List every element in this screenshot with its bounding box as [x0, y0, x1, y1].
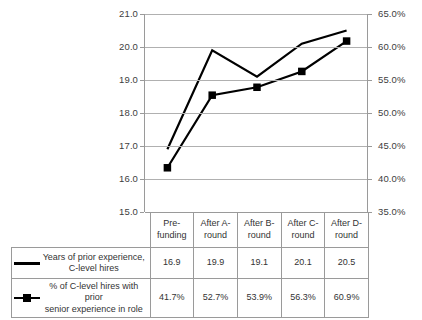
series-marker [298, 68, 306, 76]
legend-label-line: C-level hires [41, 263, 147, 274]
gridline [145, 80, 367, 81]
right-axis-tick-label: 50.0% [378, 107, 405, 118]
left-axis-tickmark [140, 47, 144, 48]
legend-label: Years of prior experience,C-level hires [41, 252, 147, 275]
category-header-label: After B-round [238, 218, 281, 241]
legend-entry-inner: % of C-level hires with priorsenior expe… [14, 281, 147, 315]
category-header-3: After B-round [237, 213, 281, 248]
gridline [145, 179, 367, 180]
swatch-square-marker [23, 294, 31, 302]
right-axis-tickmark [368, 146, 372, 147]
table-cell-value: 60.9% [325, 279, 369, 318]
table-cell-value: 56.3% [281, 279, 325, 318]
table-cell-value: 41.7% [150, 279, 194, 318]
table-row-categories: Pre-fundingAfter A-roundAfter B-roundAft… [12, 213, 369, 248]
category-header-1: Pre-funding [150, 213, 194, 248]
gridline [145, 113, 367, 114]
table-cell-value: 19.1 [237, 248, 281, 279]
left-axis-tick-label: 17.0 [119, 140, 138, 151]
legend-label-line: % of C-level hires with prior [41, 281, 147, 304]
series-marker [253, 84, 261, 92]
table-row: % of C-level hires with priorsenior expe… [12, 279, 369, 318]
line-square-marker-swatch-icon [14, 292, 40, 304]
left-axis-tickmark [140, 146, 144, 147]
table-corner-spacer [12, 213, 151, 248]
data-table-body: Pre-fundingAfter A-roundAfter B-roundAft… [12, 213, 369, 318]
right-axis-tickmark [368, 212, 372, 213]
table-cell-value: 20.1 [281, 248, 325, 279]
category-header-line: After B- [238, 218, 281, 230]
category-header-4: After C-round [281, 213, 325, 248]
right-axis-tick-label: 45.0% [378, 140, 405, 151]
right-axis-tickmark [368, 47, 372, 48]
left-axis-tickmark [140, 212, 144, 213]
category-header-2: After A-round [194, 213, 238, 248]
left-axis-tick-label: 21.0 [119, 8, 138, 19]
left-axis-tick-label: 18.0 [119, 107, 138, 118]
left-axis-tickmark [140, 14, 144, 15]
right-axis-tickmark [368, 14, 372, 15]
left-axis-tick-label: 16.0 [119, 173, 138, 184]
category-header-line: round [325, 230, 368, 242]
left-axis-tickmark [140, 113, 144, 114]
right-axis-tick-label: 35.0% [378, 206, 405, 217]
legend-entry-1[interactable]: Years of prior experience,C-level hires [12, 248, 151, 279]
legend-label: % of C-level hires with priorsenior expe… [41, 281, 147, 315]
left-axis-tick-label: 19.0 [119, 74, 138, 85]
right-axis-tickmark [368, 179, 372, 180]
right-axis-tick-label: 65.0% [378, 8, 405, 19]
category-header-line: After D- [325, 218, 368, 230]
category-header-line: round [194, 230, 237, 242]
right-axis-tickmark [368, 113, 372, 114]
table-cell-value: 53.9% [237, 279, 281, 318]
right-axis-tickmark [368, 80, 372, 81]
series-marker [343, 37, 351, 45]
left-axis-tickmark [140, 179, 144, 180]
legend-entry-2[interactable]: % of C-level hires with priorsenior expe… [12, 279, 151, 318]
category-header-line: round [282, 230, 325, 242]
table-cell-value: 16.9 [150, 248, 194, 279]
right-axis: 65.0%60.0%55.0%50.0%45.0%40.0%35.0% [378, 0, 422, 320]
category-header-line: After A- [194, 218, 237, 230]
gridline [145, 47, 367, 48]
legend-entry-inner: Years of prior experience,C-level hires [14, 252, 147, 275]
table-cell-value: 20.5 [325, 248, 369, 279]
table-cell-value: 52.7% [194, 279, 238, 318]
category-header-label: Pre-funding [151, 218, 194, 241]
right-axis-tick-label: 55.0% [378, 74, 405, 85]
gridline [145, 14, 367, 15]
category-header-5: After D-round [325, 213, 369, 248]
series-marker [164, 164, 172, 172]
left-axis-tick-label: 20.0 [119, 41, 138, 52]
left-axis-tickmark [140, 80, 144, 81]
plot-area [144, 14, 368, 212]
series-line-2 [167, 41, 346, 168]
line-swatch-icon [14, 257, 40, 269]
category-header-line: Pre- [151, 218, 194, 230]
category-header-label: After C-round [282, 218, 325, 241]
table-row: Years of prior experience,C-level hires1… [12, 248, 369, 279]
right-axis-tick-label: 60.0% [378, 41, 405, 52]
category-header-line: round [238, 230, 281, 242]
data-table: Pre-fundingAfter A-roundAfter B-roundAft… [11, 212, 369, 318]
category-header-line: funding [151, 230, 194, 242]
table-cell-value: 19.9 [194, 248, 238, 279]
category-header-label: After A-round [194, 218, 237, 241]
category-header-label: After D-round [325, 218, 368, 241]
category-header-line: After C- [282, 218, 325, 230]
swatch-line [14, 262, 40, 265]
series-marker [208, 91, 216, 99]
gridline [145, 146, 367, 147]
right-axis-tick-label: 40.0% [378, 173, 405, 184]
legend-label-line: Years of prior experience, [41, 252, 147, 263]
chart-container: 21.020.019.018.017.016.015.0 65.0%60.0%5… [0, 0, 422, 320]
legend-label-line: senior experience in role [41, 304, 147, 315]
